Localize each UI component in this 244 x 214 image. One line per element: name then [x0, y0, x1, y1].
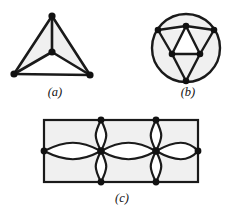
figure-c: (c): [16, 106, 228, 214]
vertex-top-right: [211, 27, 218, 34]
figure-b: (b): [132, 2, 244, 106]
vertex-bottom-right: [153, 179, 160, 186]
caption-b: (b): [132, 86, 244, 99]
figure-a-graphic: [0, 2, 110, 86]
vertex-bottom-left: [98, 179, 105, 186]
vertex-inner-left: [97, 147, 105, 155]
vertex-top-left: [155, 27, 162, 34]
figure-plate: (a) (b): [0, 0, 244, 214]
vertex-apex: [48, 12, 55, 19]
vertex-top-center: [183, 23, 190, 30]
vertex-bottom-left: [10, 70, 17, 77]
vertex-bottom: [183, 78, 190, 85]
figure-b-graphic: [132, 2, 244, 86]
vertex-center: [48, 48, 55, 55]
vertex-mid-left: [169, 51, 176, 58]
vertex-inner-right: [152, 147, 160, 155]
caption-a: (a): [0, 86, 110, 99]
vertex-bottom-right: [86, 71, 93, 78]
vertex-mid-right: [197, 51, 204, 58]
vertex-top-left: [98, 117, 105, 124]
figure-c-graphic: [16, 106, 228, 196]
figure-a: (a): [0, 2, 110, 106]
edge-bottomleft-bottomright: [14, 74, 90, 75]
vertex-right-mid: [195, 148, 202, 155]
vertex-left-mid: [41, 148, 48, 155]
caption-c: (c): [16, 192, 228, 205]
vertex-top-right: [153, 117, 160, 124]
